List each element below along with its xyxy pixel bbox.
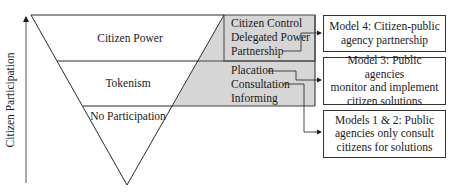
model-4-line1: Model 4: Citizen-public: [329, 20, 440, 34]
rung-citizen-control: Citizen Control: [231, 17, 302, 31]
rung-informing: Informing: [231, 92, 278, 106]
rung-placation: Placation: [231, 64, 274, 78]
model-3-line3: citizen solutions: [328, 95, 441, 109]
level-no-participation: No Participation: [68, 110, 188, 123]
model-3-box: Model 3: Public agencies monitor and imp…: [323, 57, 446, 105]
rung-delegated-power: Delegated Power: [231, 31, 310, 45]
model-4-line2: agency partnership: [329, 34, 440, 48]
model-3-line1: Model 3: Public agencies: [328, 54, 441, 81]
level-citizen-power: Citizen Power: [70, 32, 190, 45]
model-4-box: Model 4: Citizen-public agency partnersh…: [323, 15, 446, 52]
models-1-2-line1: Models 1 & 2: Public: [335, 114, 434, 128]
models-1-2-box: Models 1 & 2: Public agencies only consu…: [323, 110, 446, 158]
models-1-2-line2: agencies only consult: [335, 127, 434, 141]
rung-partnership: Partnership: [231, 45, 283, 59]
rung-consultation: Consultation: [231, 78, 290, 92]
level-tokenism: Tokenism: [68, 77, 188, 90]
models-1-2-line3: citizens for solutions: [335, 141, 434, 155]
model-3-line2: monitor and implement: [328, 81, 441, 95]
axis-label: Citizen Participation: [4, 53, 16, 148]
